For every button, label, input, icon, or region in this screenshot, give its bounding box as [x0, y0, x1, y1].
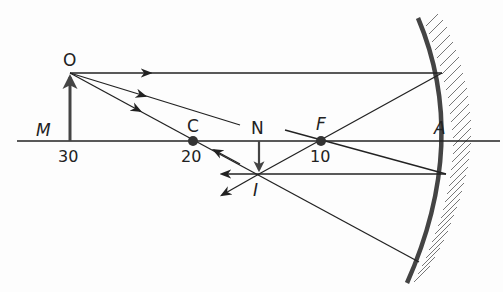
center-point: [188, 136, 198, 146]
concave-mirror-diagram: O M C N F A I 30 20 10: [0, 0, 503, 292]
value-center-position: 20: [181, 147, 201, 166]
label-object-base: M: [36, 120, 51, 140]
value-object-position: 30: [58, 147, 78, 166]
label-image-base: N: [251, 118, 264, 138]
label-object-top: O: [63, 50, 76, 70]
value-focus-position: 10: [310, 147, 330, 166]
label-focus: F: [316, 114, 326, 134]
label-image-top: I: [253, 180, 258, 200]
focal-point: [316, 136, 326, 146]
label-vertex: A: [433, 118, 446, 138]
center-ray: [70, 73, 419, 262]
label-center: C: [187, 116, 199, 136]
